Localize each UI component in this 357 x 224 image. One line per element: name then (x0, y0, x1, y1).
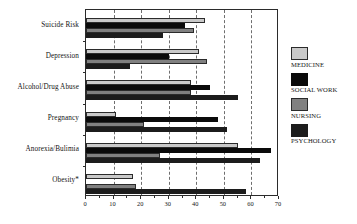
x-tick-label: 30 (165, 200, 171, 207)
x-tick-label: 10 (109, 200, 115, 207)
bar-group (86, 72, 277, 103)
category-label: Depression (46, 52, 79, 60)
x-tick (99, 196, 100, 198)
category-label: Anorexia/Bulimia (26, 145, 80, 153)
bar-group (86, 104, 277, 135)
category-label: Obesity* (52, 176, 79, 184)
plot-area (85, 9, 278, 196)
y-tick (83, 104, 86, 105)
bar-group (86, 10, 277, 41)
bar (86, 95, 238, 100)
legend-swatch-icon (291, 47, 308, 60)
x-tick-label: 70 (275, 200, 281, 207)
x-tick (182, 196, 183, 198)
x-tick (278, 196, 279, 199)
x-tick-label: 20 (137, 200, 143, 207)
y-tick (83, 135, 86, 136)
x-tick-label: 0 (83, 200, 86, 207)
bar (86, 64, 130, 69)
x-tick (85, 196, 86, 199)
legend-swatch-icon (291, 73, 308, 86)
legend-entry: PSYCHOLOGY (291, 124, 357, 146)
legend-label: PSYCHOLOGY (291, 137, 357, 145)
legend-swatch-icon (291, 124, 308, 137)
x-tick (264, 196, 265, 198)
legend-label: SOCIAL WORK (291, 86, 357, 94)
legend-swatch-icon (291, 98, 308, 111)
x-tick-label: 60 (247, 200, 253, 207)
legend-entry: MEDICINE (291, 47, 357, 69)
legend-entry: SOCIAL WORK (291, 73, 357, 95)
bar (86, 33, 163, 38)
x-tick (250, 196, 251, 199)
legend-label: MEDICINE (291, 61, 357, 69)
x-tick (126, 196, 127, 198)
bar-group (86, 41, 277, 72)
x-tick (223, 196, 224, 199)
x-tick (237, 196, 238, 198)
y-tick (83, 72, 86, 73)
x-tick (154, 196, 155, 198)
x-axis: 010203040506070 (85, 196, 278, 218)
legend-label: NURSING (291, 112, 357, 120)
bar-group (86, 135, 277, 166)
category-label: Pregnancy (48, 114, 79, 122)
legend-entry: NURSING (291, 98, 357, 120)
x-tick-label: 40 (192, 200, 198, 207)
x-tick-label: 50 (220, 200, 226, 207)
x-tick (140, 196, 141, 199)
bar-chart: Suicide RiskDepressionAlcohol/Drug Abuse… (0, 0, 357, 224)
bar (86, 174, 133, 179)
x-tick (113, 196, 114, 199)
bar (86, 158, 260, 163)
x-tick (168, 196, 169, 199)
bar-group (86, 166, 277, 197)
x-tick (195, 196, 196, 199)
y-tick (83, 41, 86, 42)
category-label: Suicide Risk (41, 21, 79, 29)
category-label: Alcohol/Drug Abuse (18, 83, 80, 91)
bar (86, 189, 246, 194)
y-tick (83, 166, 86, 167)
chart-legend: MEDICINESOCIAL WORKNURSINGPSYCHOLOGY (291, 47, 357, 149)
bar (86, 127, 227, 132)
x-tick (209, 196, 210, 198)
category-axis-labels: Suicide RiskDepressionAlcohol/Drug Abuse… (0, 9, 82, 196)
